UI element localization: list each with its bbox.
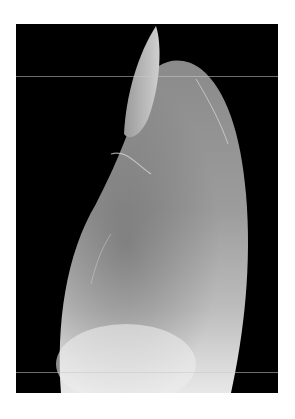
fingertip-photo [16, 24, 278, 393]
scan-line-bottom [16, 372, 278, 373]
fingertip-illustration [16, 24, 278, 393]
scan-line-top [16, 76, 278, 77]
